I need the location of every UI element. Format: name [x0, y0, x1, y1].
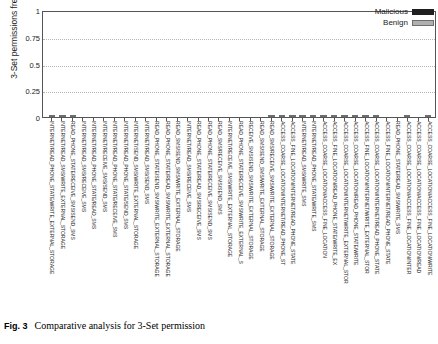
x-label-slot: ACCESS_FINE_LOCATION/INTERNET/READ_PHONE… — [382, 121, 392, 306]
x-label-slot: ACCESS_FINE_LOCATION/INTERNET/WRITE_EXTE… — [361, 121, 371, 306]
x-category-label: INTERNET/READ_SMS/WRITE_SMS — [300, 121, 305, 206]
x-axis-category-labels: INTERNET/READ_PHONE_STATE/WRITE_EXTERNAL… — [42, 121, 436, 306]
x-category-label: READ_PHONE_STATE/READ_SMS/RECEIVE_SMS — [195, 121, 200, 240]
stacked-bar — [331, 115, 337, 117]
x-category-label: ACCESS_COARSE_LOCATION/INTERNET/READ_PHO… — [279, 121, 284, 265]
x-label-slot: READ_PHONE_STATE/READ_SMS/RECEIVE_SMS — [193, 121, 203, 306]
x-category-label: INTERNET/READ_PHONE_STATE/WRITE_SMS — [311, 121, 316, 231]
bar-slot — [235, 12, 245, 117]
bar-slot — [256, 12, 266, 117]
bar-slot — [287, 12, 297, 117]
bar-segment-benign — [425, 115, 431, 117]
x-category-label: READ_PHONE_STATE/SEND_SMS/WRITE_EXTERNAL… — [153, 121, 158, 277]
x-category-label: RECEIVE_SMS/SEND_SMS/WRITE_EXTERNAL_STOR… — [248, 121, 253, 260]
bar-slot — [89, 12, 99, 117]
bar-slot — [110, 12, 120, 117]
x-label-slot: INTERNET/READ_SMS/RECEIVE_SMS — [182, 121, 192, 306]
x-category-label: READ_PHONE_STATE/READ_SMS/WRITE_EXTERNAL… — [164, 121, 169, 277]
bar-slot — [266, 12, 276, 117]
bar-slot — [277, 12, 287, 117]
x-label-slot: ACCESS_FINE_LOCATION/INTERNET/READ_PHONE… — [287, 121, 297, 306]
x-label-slot: READ_SMS/RECEIVE_SMS/SEND_SMS — [214, 121, 224, 306]
x-category-label: INTERNET/READ_SMS/RECEIVE_SMS — [185, 121, 190, 212]
legend-item-benign: Benign — [334, 17, 434, 28]
stacked-bar — [310, 115, 316, 117]
bar-segment-benign — [320, 115, 326, 117]
x-label-slot: ACCESS_FINE_LOCATION/READ_PHONE_STATE/WR… — [329, 121, 339, 306]
bar-segment-benign — [279, 115, 285, 117]
bar-segment-benign — [299, 115, 305, 117]
bar-segment-benign — [341, 115, 347, 117]
x-label-slot: READ_PHONE_STATE/SEND_SMS/WRITE_EXTERNAL… — [151, 121, 161, 306]
bar-segment-benign — [268, 115, 274, 117]
stacked-bar — [268, 115, 274, 117]
stacked-bar — [352, 115, 358, 117]
legend-label-malicious: Malicious — [375, 7, 408, 16]
y-tick-label: 0.5 — [14, 60, 40, 69]
x-category-label: ACCESS_FINE_LOCATION/READ_PHONE_STATE/WR… — [332, 121, 337, 265]
x-category-label: READ_PHONE_STATE/RECEIVE_SMS/SEND_SMS — [206, 121, 211, 240]
x-category-label: ACCESS_FINE_LOCATION/INTERNET/WRITE_EXTE… — [363, 121, 368, 274]
x-label-slot: INTERNET/READ_SMS/SEND_SMS — [140, 121, 150, 306]
x-category-label: ACCESS_COARSE_LOCATION/INTERNET/READ_PHO… — [374, 121, 379, 274]
x-category-label: INTERNET/READ_PHONE_STATE/WRITE_EXTERNAL… — [49, 121, 54, 274]
stacked-bar — [341, 115, 347, 117]
x-category-label: READ_PHONE_STATE/RECEIVE_SMS/SEND_SMS — [70, 121, 75, 240]
bar-slot — [318, 12, 328, 117]
y-tick-label: 0.75 — [14, 33, 40, 42]
x-label-slot: ACCESS_COARSE_LOCATION/INTERNET/READ_PHO… — [277, 121, 287, 306]
x-category-label: ACCESS_FINE_LOCATION/INTERNET/READ_PHONE… — [384, 121, 389, 264]
x-label-slot: INTERNET/RECEIVE_SMS/SEND_SMS — [98, 121, 108, 306]
x-category-label: ACCESS_COARSE_LOCATION/ACCESS_FINE_LOCAT… — [415, 121, 420, 273]
figure-number: Fig. 3 — [4, 321, 28, 331]
stacked-bar — [362, 115, 368, 117]
x-label-slot: ACCESS_COARSE_LOCATION/ACCESS_FINE_LOCAT… — [319, 121, 329, 306]
x-label-slot: INTERNET/READ_SMS/RECEIVE_SMS — [77, 121, 87, 306]
bar-slot — [204, 12, 214, 117]
x-category-label: READ_SMS/RECEIVE_SMS/SEND_SMS — [216, 121, 221, 215]
stacked-bar — [289, 115, 295, 117]
y-axis-tick-labels: 00.250.50.751 — [14, 8, 40, 118]
x-category-label: ACCESS_COARSE_LOCATION/ACCESS_FINE_LOCAT… — [321, 121, 326, 258]
x-category-label: READ_SMS/SEND_SMS/WRITE_EXTERNAL_STORAGE — [258, 121, 263, 252]
x-category-label: INTERNET/READ_SMS/RECEIVE_SMS — [80, 121, 85, 212]
x-category-label: READ_PHONE_STATE/READ_SMS/WRITE_SMS — [395, 121, 400, 234]
bar-segment-benign — [373, 115, 379, 117]
x-label-slot: INTERNET/READ_SMS/WRITE_SMS — [298, 121, 308, 306]
bar-segment-benign — [310, 115, 316, 117]
caption-text: Comparative analysis for 3-Set permissio… — [35, 320, 206, 331]
x-label-slot: INTERNET/READ_PHONE_STATE/WRITE_EXTERNAL… — [46, 121, 56, 306]
x-label-slot: ACCESS_COARSE_LOCATION/INTERNET/WRITE_EX… — [340, 121, 350, 306]
bar-slot — [68, 12, 78, 117]
x-label-slot: INTERNET/READ_PHONE_STATE/READ_SMS — [88, 121, 98, 306]
bar-segment-benign — [70, 115, 76, 117]
bar-segment-benign — [362, 115, 368, 117]
stacked-bar — [373, 115, 379, 117]
bar-slot — [57, 12, 67, 117]
bar-slot — [162, 12, 172, 117]
y-tick-label: 0.25 — [14, 87, 40, 96]
x-category-label: INTERNET/READ_PHONE_STATE/READ_SMS — [90, 121, 95, 229]
x-label-slot: READ_SMS/SEND_SMS/WRITE_EXTERNAL_STORAGE — [256, 121, 266, 306]
x-label-slot: INTERNET/READ_PHONE_STATE/SEND_SMS — [119, 121, 129, 306]
bar-slot — [78, 12, 88, 117]
stacked-bar — [49, 115, 55, 117]
x-label-slot: INTERNET/RECEIVE_SMS/WRITE_EXTERNAL_STOR… — [224, 121, 234, 306]
x-label-slot: RECEIVE_SMS/SEND_SMS/WRITE_EXTERNAL_STOR… — [245, 121, 255, 306]
x-label-slot: READ_PHONE_STATE/RECEIVE_SMS/SEND_SMS — [67, 121, 77, 306]
x-category-label: ACCESS_COARSE_LOCATION/ACCESS_FINE_LOCAT… — [426, 121, 431, 275]
bar-slot — [131, 12, 141, 117]
stacked-bar — [279, 115, 285, 117]
x-category-label: INTERNET/RECEIVE_SMS/SEND_SMS — [101, 121, 106, 212]
bar-slot — [214, 12, 224, 117]
stacked-bar — [299, 115, 305, 117]
x-category-label: INTERNET/READ_SMS/SEND_SMS — [143, 121, 148, 204]
stacked-bar — [425, 115, 431, 117]
legend: Malicious Benign — [334, 6, 434, 28]
x-label-slot: READ_SMS/SEND_SMS/WRITE_EXTERNAL_STORAGE — [172, 121, 182, 306]
stacked-bar — [404, 115, 410, 117]
bar-segment-benign — [331, 115, 337, 117]
stacked-bar — [320, 115, 326, 117]
legend-label-benign: Benign — [383, 18, 408, 27]
x-label-slot: ACCESS_COARSE_LOCATION/READ_PHONE_STATE/… — [350, 121, 360, 306]
